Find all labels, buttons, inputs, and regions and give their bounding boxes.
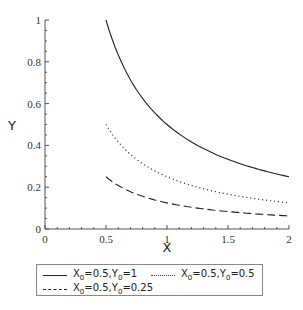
legend-label: X0=0.5,Y0=1 bbox=[73, 268, 137, 282]
svg-text:0: 0 bbox=[36, 223, 42, 235]
curve-dashed bbox=[106, 177, 289, 216]
solid-line-swatch bbox=[43, 275, 67, 276]
dotted-line-swatch bbox=[151, 275, 175, 276]
legend-label: X0=0.5,Y0=0.5 bbox=[181, 268, 255, 282]
svg-text:0.8: 0.8 bbox=[27, 56, 41, 68]
svg-text:0.2: 0.2 bbox=[27, 181, 41, 193]
svg-text:2: 2 bbox=[286, 233, 292, 245]
curve-solid bbox=[106, 20, 289, 177]
svg-text:0: 0 bbox=[42, 233, 48, 245]
svg-text:0.4: 0.4 bbox=[27, 139, 41, 151]
curve-dotted bbox=[106, 125, 289, 203]
svg-text:0.6: 0.6 bbox=[27, 98, 41, 110]
legend: X0=0.5,Y0=1 X0=0.5,Y0=0.5 X0=0.5,Y0=0.25 bbox=[36, 264, 263, 296]
svg-text:1: 1 bbox=[36, 14, 42, 26]
data-curves bbox=[106, 20, 289, 216]
legend-item-solid: X0=0.5,Y0=1 bbox=[43, 268, 137, 282]
chart-plot: 00.511.5200.20.40.60.81 X Y bbox=[0, 0, 303, 262]
legend-label: X0=0.5,Y0=0.25 bbox=[73, 282, 153, 296]
x-axis-label: X bbox=[163, 240, 172, 255]
svg-text:1.5: 1.5 bbox=[221, 233, 235, 245]
legend-item-dashed: X0=0.5,Y0=0.25 bbox=[43, 282, 153, 296]
dashed-line-swatch bbox=[43, 289, 67, 290]
tick-labels: 00.511.5200.20.40.60.81 bbox=[27, 14, 292, 245]
svg-text:0.5: 0.5 bbox=[99, 233, 113, 245]
y-axis-label: Y bbox=[7, 118, 16, 133]
legend-item-dotted: X0=0.5,Y0=0.5 bbox=[151, 268, 255, 282]
